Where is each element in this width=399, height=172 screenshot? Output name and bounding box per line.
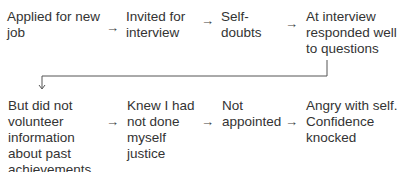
node-line: But did not xyxy=(8,98,91,114)
node-line: Knew I had xyxy=(127,98,195,114)
node-line: Not xyxy=(222,98,281,114)
node-line: information xyxy=(8,130,91,146)
node-line: not done xyxy=(127,114,195,130)
node-angry-with-self: Angry with self. Confidence knocked xyxy=(306,98,398,146)
node-line: about past xyxy=(8,146,91,162)
node-line: volunteer xyxy=(8,114,91,130)
node-not-appointed: Not appointed xyxy=(222,98,281,130)
node-did-not-volunteer: But did not volunteer information about … xyxy=(8,98,91,172)
node-knew-i-had: Knew I had not done myself justice xyxy=(127,98,195,162)
node-line: Angry with self. xyxy=(306,98,398,114)
node-line: knocked xyxy=(306,130,398,146)
node-line: achievements xyxy=(8,162,91,172)
arrow-right-icon: → xyxy=(201,114,214,130)
node-line: justice xyxy=(127,146,195,162)
arrow-right-icon: → xyxy=(285,114,298,130)
node-line: appointed xyxy=(222,114,281,130)
node-line: myself xyxy=(127,130,195,146)
node-line: Confidence xyxy=(306,114,398,130)
arrow-right-icon: → xyxy=(106,114,119,130)
